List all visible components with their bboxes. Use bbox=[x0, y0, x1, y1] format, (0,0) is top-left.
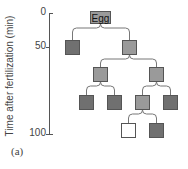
cell-node bbox=[163, 95, 178, 110]
lineage-edge bbox=[101, 82, 115, 95]
lineage-edge bbox=[129, 110, 143, 123]
cell-lineage-diagram: Time after fertilization (min) 0 50 100 … bbox=[0, 0, 188, 169]
egg-cell: Egg bbox=[90, 11, 111, 24]
lineage-edge bbox=[130, 55, 157, 67]
lineage-edge bbox=[157, 82, 171, 95]
cell-node bbox=[107, 95, 122, 110]
lineage-edge bbox=[101, 55, 130, 67]
panel-label: (a) bbox=[11, 145, 23, 157]
lineage-edge bbox=[73, 24, 101, 40]
cell-node bbox=[79, 95, 94, 110]
cell-node bbox=[135, 95, 150, 110]
cell-node bbox=[122, 40, 137, 55]
lineage-edge bbox=[101, 24, 130, 40]
axis-and-edges bbox=[0, 0, 188, 169]
cell-node bbox=[149, 67, 164, 82]
lineage-edge bbox=[143, 82, 157, 95]
cell-node bbox=[121, 123, 136, 138]
y-axis bbox=[46, 13, 53, 135]
lineage-edge bbox=[143, 110, 157, 123]
cell-node bbox=[65, 40, 80, 55]
egg-label: Egg bbox=[91, 12, 110, 23]
cell-node bbox=[93, 67, 108, 82]
cell-node bbox=[149, 123, 164, 138]
lineage-edge bbox=[87, 82, 101, 95]
